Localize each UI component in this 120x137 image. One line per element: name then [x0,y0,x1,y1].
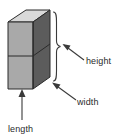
length-leader-arrow [19,89,26,120]
length-arrowhead [19,89,26,97]
height-label: height [86,56,112,66]
height-brace-path [54,12,61,81]
height-leader-arrow [63,44,85,60]
height-brace [54,12,61,81]
length-label: length [8,124,33,134]
rectangular-prism [8,10,50,89]
width-leader-arrow [52,83,76,101]
prism-dimension-diagram: height width length [0,0,120,137]
diagram-canvas: height width length [0,0,120,137]
width-label: width [76,97,99,107]
